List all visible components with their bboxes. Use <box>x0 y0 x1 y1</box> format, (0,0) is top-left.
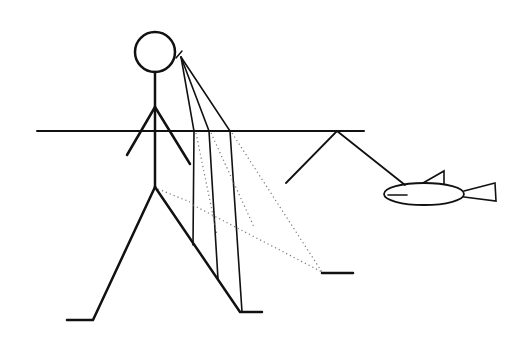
fish-dorsal-fin <box>423 171 444 184</box>
refraction-diagram <box>0 0 524 358</box>
refracted-sight-lines <box>181 57 242 312</box>
right-arm <box>155 107 190 164</box>
fish-body <box>384 183 464 205</box>
fish <box>384 171 496 205</box>
left-leg <box>67 187 155 320</box>
fish-tail <box>464 183 496 201</box>
head <box>135 32 175 72</box>
right-leg <box>155 187 262 312</box>
angled-line <box>286 131 405 185</box>
